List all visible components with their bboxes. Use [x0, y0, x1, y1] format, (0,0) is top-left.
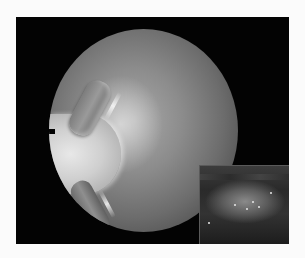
inset-closeup [199, 165, 289, 244]
inset-speck [252, 201, 254, 203]
inset-speck [246, 208, 248, 210]
inset-speck [270, 192, 272, 194]
image-frame [16, 17, 289, 244]
inset-speck [208, 222, 210, 224]
inset-tissue-band [200, 174, 289, 180]
scope-edge-notch [49, 129, 55, 134]
inset-speck [258, 206, 260, 208]
inset-speck [234, 204, 236, 206]
